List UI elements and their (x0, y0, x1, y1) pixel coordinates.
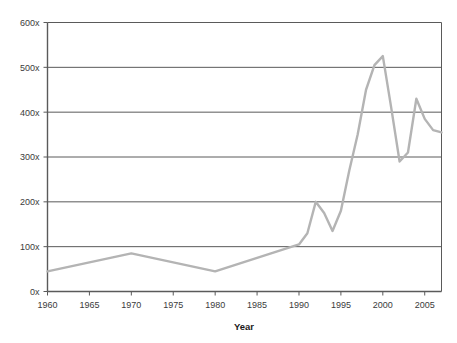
y-tick-label-500: 500x (20, 63, 40, 73)
x-tick-label-2000: 2000 (373, 300, 393, 310)
x-tick-label-1980: 1980 (205, 300, 225, 310)
x-tick-label-1990: 1990 (289, 300, 309, 310)
x-tick-label-1995: 1995 (331, 300, 351, 310)
y-tick-label-400: 400x (20, 108, 40, 118)
y-tick-label-0: 0x (30, 287, 40, 297)
line-chart: 600x500x400x300x200x100x0x 1960196519701… (0, 0, 457, 343)
x-tick-label-1975: 1975 (163, 300, 183, 310)
chart-svg: 600x500x400x300x200x100x0x 1960196519701… (0, 0, 457, 343)
x-tick-label-1985: 1985 (247, 300, 267, 310)
x-tick-label-1965: 1965 (79, 300, 99, 310)
x-tick-label-1970: 1970 (121, 300, 141, 310)
y-tick-label-600: 600x (20, 18, 40, 28)
x-axis-title: Year (234, 321, 254, 332)
x-tick-label-1960: 1960 (37, 300, 57, 310)
x-tick-label-2005: 2005 (415, 300, 435, 310)
y-tick-label-100: 100x (20, 242, 40, 252)
y-tick-label-300: 300x (20, 152, 40, 162)
y-tick-label-200: 200x (20, 197, 40, 207)
